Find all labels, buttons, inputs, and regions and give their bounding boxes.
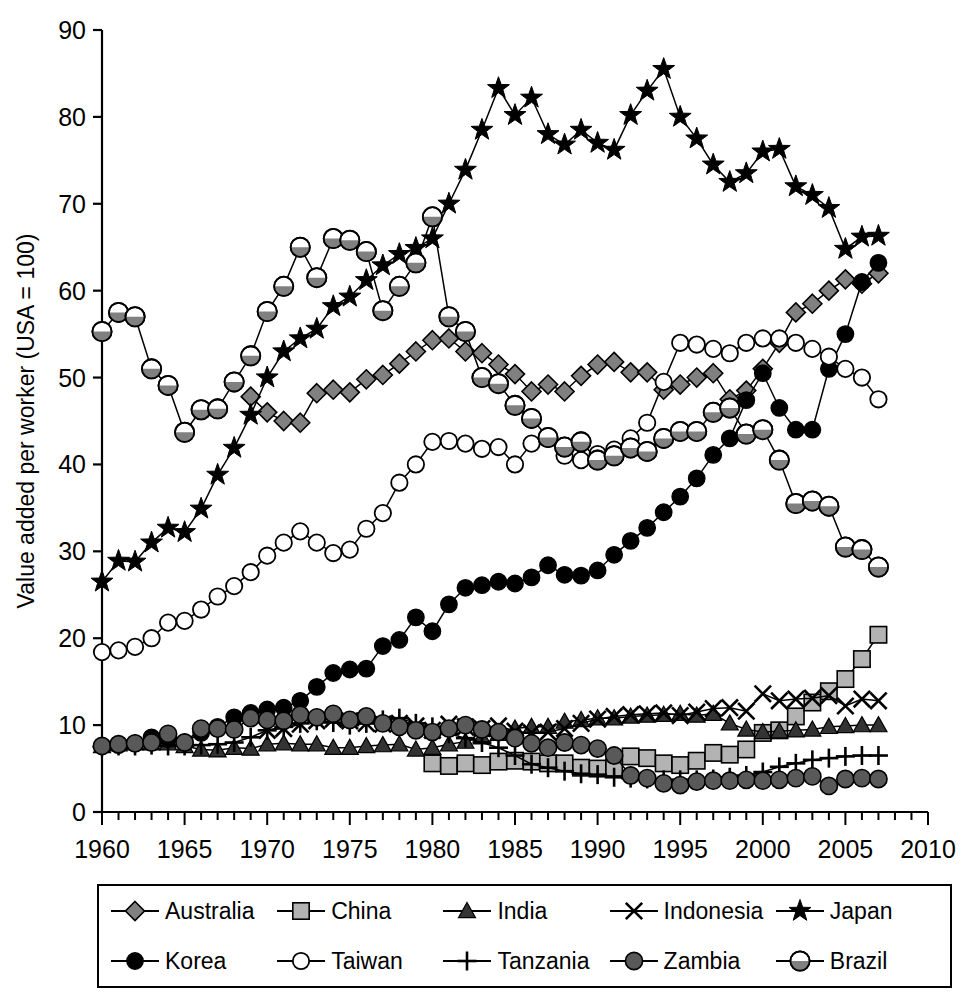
marker-circle-filled [870, 255, 886, 271]
marker-circle-dark [374, 715, 391, 732]
marker-circle-filled [441, 596, 457, 612]
legend-symbol-diamond [109, 898, 161, 924]
marker-circle-filled [804, 421, 820, 437]
marker-square [837, 671, 853, 687]
marker-circle-filled [556, 567, 572, 583]
x-tick-label: 1995 [652, 835, 708, 863]
marker-circle-dark [606, 747, 623, 764]
marker-circle-dark [622, 767, 639, 784]
marker-circle-half [274, 277, 293, 296]
chart-legend: AustraliaChinaIndiaIndonesiaJapanKoreaTa… [97, 884, 952, 988]
marker-star [702, 153, 724, 174]
marker-circle-dark [754, 772, 771, 789]
x-tick-label: 1960 [74, 835, 130, 863]
marker-circle-half [92, 322, 111, 341]
marker-circle-dark [358, 708, 375, 725]
marker-circle-half [373, 301, 392, 320]
marker-square [655, 755, 671, 771]
marker-circle-open [639, 415, 655, 431]
marker-circle-filled [738, 392, 754, 408]
marker-circle-open [276, 534, 292, 550]
marker-triangle [391, 736, 408, 751]
triangle-icon [441, 898, 493, 924]
marker-circle-open [408, 456, 424, 472]
legend-symbol-square [275, 898, 327, 924]
marker-star [636, 79, 658, 100]
legend-item-tanzania[interactable]: Tanzania [441, 948, 607, 974]
marker-circle-half [505, 396, 524, 415]
marker-circle-dark [721, 772, 738, 789]
marker-circle-half [869, 557, 888, 576]
series-markers-japan [91, 58, 889, 591]
marker-triangle [738, 721, 755, 736]
legend-item-china[interactable]: China [275, 898, 441, 924]
marker-circle-open [523, 435, 539, 451]
marker-circle-half [390, 277, 409, 296]
marker-cross-x [755, 686, 771, 702]
x-tick-label: 1980 [405, 835, 461, 863]
legend-label-taiwan: Taiwan [327, 948, 403, 974]
marker-plus [803, 750, 822, 769]
x-tick-label: 2005 [818, 835, 874, 863]
marker-circle-open [788, 335, 804, 351]
legend-item-brazil[interactable]: Brazil [774, 948, 940, 974]
marker-circle-dark [771, 771, 788, 788]
marker-square [474, 757, 490, 773]
marker-diamond [406, 342, 425, 361]
marker-triangle [308, 736, 325, 751]
marker-circle-dark [787, 770, 804, 787]
marker-star [322, 295, 344, 316]
legend-item-taiwan[interactable]: Taiwan [275, 948, 441, 974]
marker-circle-dark [176, 734, 193, 751]
marker-circle-half [225, 372, 244, 391]
marker-circle-open [325, 545, 341, 561]
series-korea [94, 255, 887, 755]
marker-diamond [423, 331, 442, 350]
marker-circle-filled [788, 421, 804, 437]
legend-item-korea[interactable]: Korea [109, 948, 275, 974]
marker-square [854, 651, 870, 667]
y-tick-label: 90 [58, 16, 86, 44]
marker-circle-open [705, 341, 721, 357]
legend-item-zambia[interactable]: Zambia [608, 948, 774, 974]
marker-circle-half [439, 307, 458, 326]
marker-square [622, 748, 638, 764]
legend-item-australia[interactable]: Australia [109, 898, 275, 924]
marker-star [190, 497, 212, 518]
series-markers-brazil [92, 207, 888, 576]
marker-circle-open [738, 335, 754, 351]
marker-circle-half [158, 376, 177, 395]
cross-x-icon [608, 898, 660, 924]
marker-circle-dark [539, 739, 556, 756]
legend-item-japan[interactable]: Japan [774, 898, 940, 924]
marker-star [240, 403, 262, 424]
marker-star [669, 105, 691, 126]
marker-circle-filled [325, 665, 341, 681]
series-line-brazil [102, 217, 878, 567]
marker-circle-filled [755, 365, 771, 381]
marker-circle-filled [391, 632, 407, 648]
marker-circle-dark [705, 772, 722, 789]
y-tick-label: 0 [72, 798, 86, 826]
marker-plus [869, 746, 888, 765]
circle-filled-icon [109, 948, 161, 974]
marker-circle-open [292, 523, 308, 539]
marker-plus [852, 746, 871, 765]
y-tick-label: 10 [58, 711, 86, 739]
marker-diamond [786, 303, 805, 322]
marker-circle-filled [523, 569, 539, 585]
marker-circle-half [720, 398, 739, 417]
marker-star [686, 127, 708, 148]
marker-circle-filled [424, 623, 440, 639]
marker-circle-open [342, 541, 358, 557]
legend-item-indonesia[interactable]: Indonesia [608, 898, 774, 924]
marker-circle-open [722, 345, 738, 361]
marker-circle-half [423, 207, 442, 226]
marker-circle-open [457, 435, 473, 451]
legend-item-india[interactable]: India [441, 898, 607, 924]
marker-diamond [274, 412, 293, 431]
y-tick-label: 20 [58, 624, 86, 652]
marker-circle-open [160, 614, 176, 630]
marker-star [834, 237, 856, 258]
marker-cross-x [837, 698, 853, 714]
